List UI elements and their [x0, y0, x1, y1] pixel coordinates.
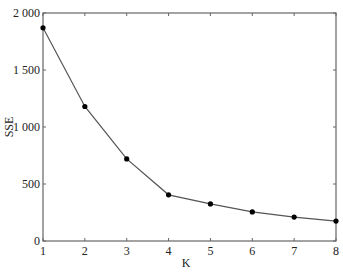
x-axis-label: K [182, 256, 191, 270]
y-tick-label: 2 000 [13, 6, 40, 20]
sse-series [40, 25, 338, 223]
x-tick-label: 1 [40, 244, 46, 258]
data-point-marker [250, 209, 255, 214]
x-tick-label: 2 [82, 244, 88, 258]
y-axis-ticks: 05001 0001 5002 000 [13, 6, 336, 248]
y-axis-label: SSE [2, 117, 16, 138]
plot-frame [43, 13, 336, 241]
data-point-marker [40, 25, 45, 30]
series-line [43, 28, 336, 221]
y-tick-label: 1 000 [13, 120, 40, 134]
plot-border [43, 13, 336, 241]
x-tick-label: 8 [333, 244, 339, 258]
x-tick-label: 5 [207, 244, 213, 258]
elbow-chart: 05001 0001 5002 000 12345678 K SSE [0, 0, 343, 272]
x-tick-label: 6 [249, 244, 255, 258]
x-tick-label: 4 [166, 244, 172, 258]
x-tick-label: 7 [291, 244, 297, 258]
data-point-marker [82, 104, 87, 109]
data-point-marker [292, 214, 297, 219]
y-tick-label: 500 [22, 177, 40, 191]
data-point-marker [208, 201, 213, 206]
x-tick-label: 3 [124, 244, 130, 258]
y-tick-label: 1 500 [13, 63, 40, 77]
data-point-marker [166, 192, 171, 197]
data-point-marker [124, 156, 129, 161]
data-point-marker [333, 218, 338, 223]
x-axis-ticks: 12345678 [40, 13, 339, 258]
